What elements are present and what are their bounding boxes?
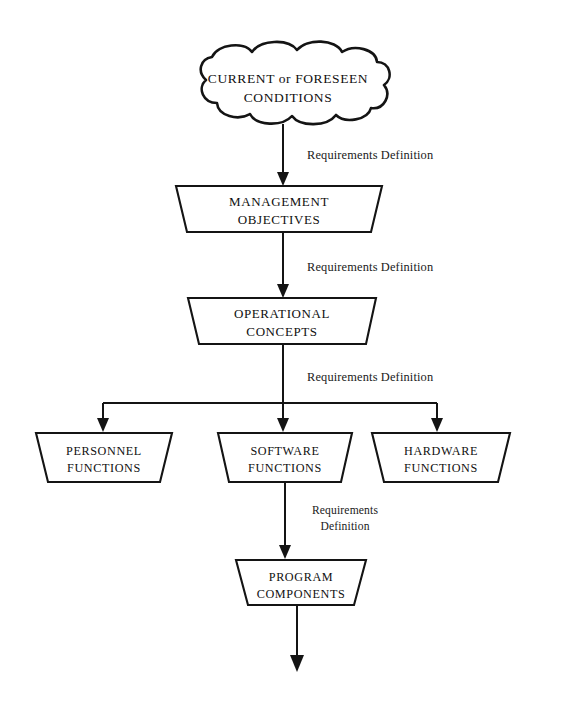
cloud-label-line1: CURRENT or FORESEEN bbox=[208, 71, 368, 86]
edge-label-4-line2: Definition bbox=[320, 520, 369, 533]
flowchart-diagram: CURRENT or FORESEEN CONDITIONS Requireme… bbox=[0, 0, 571, 706]
edge-management-to-operational: Requirements Definition bbox=[277, 232, 433, 298]
hardware-functions-label-line2: FUNCTIONS bbox=[404, 461, 478, 475]
cloud-label-line2: CONDITIONS bbox=[244, 90, 333, 105]
software-functions-label-line2: FUNCTIONS bbox=[248, 461, 322, 475]
arrow-head-software bbox=[277, 418, 289, 432]
arrow-head-personnel bbox=[97, 418, 109, 432]
management-objectives-label-line2: OBJECTIVES bbox=[238, 212, 321, 227]
flowchart-canvas: CURRENT or FORESEEN CONDITIONS Requireme… bbox=[0, 0, 571, 706]
arrow-head-1 bbox=[277, 172, 289, 186]
personnel-functions-label-line2: FUNCTIONS bbox=[67, 461, 141, 475]
management-objectives-label-line1: MANAGEMENT bbox=[229, 194, 329, 209]
edge-software-to-program-components: Requirements Definition bbox=[279, 482, 378, 559]
program-components-label-line2: COMPONENTS bbox=[257, 587, 346, 601]
edge-label-3: Requirements Definition bbox=[307, 370, 433, 384]
node-program-components: PROGRAM COMPONENTS bbox=[236, 560, 366, 605]
arrow-head-hardware bbox=[431, 418, 443, 432]
personnel-functions-label-line1: PERSONNEL bbox=[66, 444, 142, 458]
node-management-objectives: MANAGEMENT OBJECTIVES bbox=[176, 186, 382, 232]
edge-label-4-line1: Requirements bbox=[312, 504, 379, 517]
hardware-functions-label-line1: HARDWARE bbox=[404, 444, 478, 458]
edge-program-components-outflow bbox=[290, 605, 304, 672]
arrow-head-2 bbox=[277, 284, 289, 298]
operational-concepts-label-line2: CONCEPTS bbox=[246, 324, 317, 339]
node-hardware-functions: HARDWARE FUNCTIONS bbox=[372, 433, 510, 482]
node-personnel-functions: PERSONNEL FUNCTIONS bbox=[36, 433, 172, 482]
edge-label-1: Requirements Definition bbox=[307, 148, 433, 162]
program-components-label-line1: PROGRAM bbox=[269, 570, 333, 584]
arrow-head-outflow bbox=[290, 655, 304, 672]
edge-label-2: Requirements Definition bbox=[307, 260, 433, 274]
edge-conditions-to-management: Requirements Definition bbox=[277, 124, 433, 186]
node-operational-concepts: OPERATIONAL CONCEPTS bbox=[188, 298, 376, 344]
software-functions-label-line1: SOFTWARE bbox=[250, 444, 319, 458]
edge-operational-to-functions-split: Requirements Definition bbox=[97, 344, 443, 432]
operational-concepts-label-line1: OPERATIONAL bbox=[234, 306, 330, 321]
node-current-foreseen-conditions: CURRENT or FORESEEN CONDITIONS bbox=[201, 42, 390, 125]
node-software-functions: SOFTWARE FUNCTIONS bbox=[218, 433, 352, 482]
arrow-head-4 bbox=[279, 545, 291, 559]
